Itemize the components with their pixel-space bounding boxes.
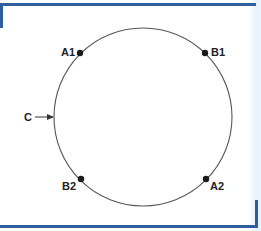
point-b2-dot — [78, 176, 84, 182]
point-a2-dot — [203, 176, 209, 182]
circle-diagram: C A1 B1 B2 A2 — [0, 0, 261, 231]
point-b2: B2 — [62, 176, 84, 192]
point-a1: A1 — [61, 46, 83, 58]
point-a2: A2 — [203, 176, 224, 192]
label-b1: B1 — [211, 46, 225, 58]
label-b2: B2 — [62, 180, 76, 192]
point-b1: B1 — [202, 46, 225, 58]
diagram-frame: C A1 B1 B2 A2 — [0, 0, 261, 231]
label-c: C — [24, 111, 32, 123]
pointer-c: C — [24, 111, 53, 123]
point-b1-dot — [202, 50, 208, 56]
label-a2: A2 — [210, 180, 224, 192]
label-a1: A1 — [61, 46, 75, 58]
point-a1-dot — [77, 50, 83, 56]
